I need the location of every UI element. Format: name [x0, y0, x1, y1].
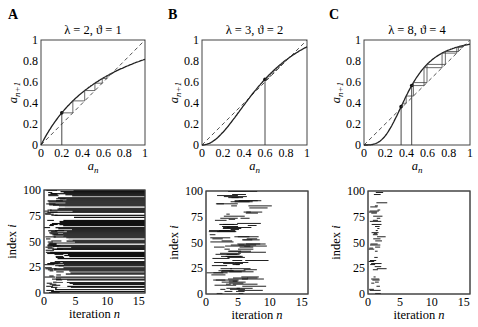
activity-bar [55, 230, 64, 231]
activity-bar [51, 291, 145, 292]
activity-bar [45, 214, 54, 215]
activity-bar [50, 252, 145, 253]
y-tick-label: 0.8 [23, 54, 38, 68]
activity-bar [45, 268, 56, 269]
activity-bar [249, 207, 267, 208]
activity-bar [375, 205, 378, 206]
y-axis-label: an+1 [329, 82, 345, 103]
y-tick-label: 50 [353, 236, 365, 250]
y-tick-label: 50 [191, 236, 203, 250]
x-tick-label: 0 [199, 146, 205, 160]
activity-bar [52, 234, 63, 235]
y-tick-label: 0.2 [346, 117, 361, 131]
activity-bar [58, 258, 145, 259]
gap [57, 244, 145, 245]
activity-bar [226, 214, 229, 215]
activity-bar [242, 239, 260, 240]
activity-bar [246, 244, 266, 245]
raster-panel-B-bottom: 0510150255075100iteration nindex i [167, 184, 308, 322]
gap [57, 206, 145, 207]
x-tick-label: 5 [235, 295, 241, 309]
activity-bar [369, 212, 377, 213]
activity-bar [48, 242, 53, 243]
activity-bar [248, 225, 257, 226]
activity-bar [238, 290, 263, 291]
activity-bar [46, 252, 53, 253]
gap [57, 281, 145, 282]
activity-bar [245, 260, 268, 261]
activity-bar [371, 279, 379, 280]
activity-bar [221, 256, 243, 257]
activity-bar [375, 251, 378, 252]
activity-bar [218, 270, 245, 271]
activity-bar [239, 200, 262, 201]
activity-bar [376, 230, 378, 231]
activity-bar [237, 223, 261, 224]
activity-bar [50, 270, 54, 271]
panel-letter: A [8, 7, 19, 22]
activity-bar [224, 216, 245, 217]
activity-bar [51, 240, 61, 241]
activity-bar [56, 257, 64, 258]
activity-bar [247, 278, 257, 279]
map-curve [202, 47, 307, 145]
x-tick-label: 0 [361, 146, 367, 160]
activity-bar [229, 281, 238, 282]
y-axis-label: an+1 [6, 82, 22, 103]
activity-bar [376, 192, 383, 193]
y-tick-label: 75 [191, 210, 203, 224]
x-tick-label: 0.2 [54, 146, 69, 160]
y-tick-label: 0.4 [184, 96, 199, 110]
activity-bar [214, 247, 225, 248]
raster-panel-C-bottom: 0510150255075100iteration nindex i [329, 184, 470, 322]
x-tick-label: 10 [101, 294, 113, 308]
activity-bar [56, 227, 145, 228]
map-panel-B: Bλ = 3, ϑ = 200.20.40.60.8100.20.40.60.8… [167, 7, 310, 175]
x-tick-label: 0.8 [279, 146, 294, 160]
panel-letter: C [329, 7, 339, 22]
activity-bar [374, 194, 381, 195]
activity-bar [370, 206, 377, 207]
activity-bar [217, 203, 238, 204]
activity-bar [231, 201, 253, 202]
activity-bar [370, 244, 377, 245]
activity-bar [224, 196, 247, 197]
activity-bar [375, 240, 382, 241]
panel-title: λ = 8, ϑ = 4 [388, 23, 446, 37]
plot-frame [368, 191, 470, 294]
activity-bar [47, 263, 58, 264]
activity-bar [50, 284, 57, 285]
activity-bar [372, 280, 379, 281]
activity-bar [375, 226, 380, 227]
y-tick-label: 0.6 [23, 75, 38, 89]
activity-bar [217, 195, 238, 196]
activity-bar [374, 276, 376, 277]
activity-bar [370, 290, 381, 291]
activity-bar [241, 276, 259, 277]
activity-bar [70, 272, 145, 273]
activity-bar [226, 284, 231, 285]
x-axis-label: iteration n [69, 307, 120, 321]
figure: Aλ = 2, ϑ = 100.20.40.60.8100.20.40.60.8… [0, 0, 478, 327]
activity-bar [45, 267, 52, 268]
x-tick-label: 0.2 [216, 146, 231, 160]
activity-bar [229, 283, 243, 284]
activity-bar [373, 216, 382, 217]
y-tick-label: 25 [353, 261, 365, 275]
gap [57, 288, 145, 289]
activity-bar [209, 230, 230, 231]
activity-bar [377, 218, 380, 219]
activity-bar [242, 279, 264, 280]
activity-bar [56, 274, 61, 275]
activity-bar [209, 231, 236, 232]
raster-panel-A-bottom: 0510150255075100iteration nindex i [5, 183, 145, 321]
activity-bar [45, 247, 52, 248]
x-tick-label: 10 [264, 295, 276, 309]
y-axis-label: index i [167, 225, 181, 260]
activity-bar [374, 257, 377, 258]
activity-bar [216, 280, 239, 281]
activity-bar [61, 261, 145, 262]
activity-bar [51, 287, 57, 288]
activity-bar [56, 279, 145, 280]
activity-bar [238, 252, 266, 253]
